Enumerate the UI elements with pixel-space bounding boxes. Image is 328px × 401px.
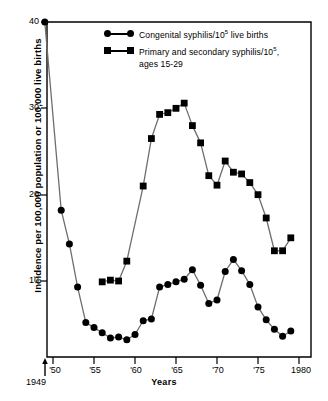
data-point-square-1956: [99, 278, 106, 285]
square-marker-icon: [104, 45, 134, 56]
data-point-square-1967: [189, 122, 196, 129]
data-point-circle-1958: [115, 334, 122, 341]
x-tick-label-1970: '70: [203, 365, 233, 375]
data-point-circle-1959: [123, 336, 130, 343]
circle-marker-icon: [104, 28, 134, 39]
data-point-square-1957: [107, 277, 114, 284]
legend-label-congenital: Congenital syphilis/105 live births: [139, 27, 268, 41]
data-point-circle-1970: [214, 296, 221, 303]
data-point-square-1962: [148, 135, 155, 142]
chart-legend: Congenital syphilis/105 live births Prim…: [104, 27, 279, 73]
data-point-circle-1964: [164, 281, 171, 288]
data-point-circle-1973: [238, 267, 245, 274]
data-point-square-1969: [205, 172, 212, 179]
data-point-square-1966: [181, 100, 188, 107]
data-point-circle-1978: [279, 333, 286, 340]
data-point-square-1973: [238, 171, 245, 178]
data-point-circle-1954: [82, 319, 89, 326]
x-tick-label-1965: '65: [162, 365, 192, 375]
y-tick-label-40: 40: [17, 16, 39, 26]
data-point-circle-1977: [271, 326, 278, 333]
chart-figure: 40 30 20 10 '50 '55 '60 '65 '70 '75 1980…: [0, 0, 328, 401]
data-point-square-1963: [156, 111, 163, 118]
data-point-circle-1957: [107, 334, 114, 341]
data-point-square-1975: [255, 191, 262, 198]
y-axis-title: Incidence per 100,000 population or 100,…: [32, 36, 43, 296]
series-line-2: [102, 103, 291, 282]
data-point-circle-1963: [156, 284, 163, 291]
origin-year-label: 1949: [26, 377, 46, 387]
data-point-square-1971: [222, 158, 229, 165]
data-point-circle-1969: [205, 300, 212, 307]
data-point-circle-1955: [91, 324, 98, 331]
data-point-circle-1949: [41, 19, 48, 26]
data-point-circle-1952: [66, 240, 73, 247]
data-point-circle-1953: [74, 284, 81, 291]
data-point-circle-1951: [58, 207, 65, 214]
data-point-square-1979: [287, 234, 294, 241]
data-point-circle-1967: [189, 266, 196, 273]
data-point-square-1976: [263, 215, 270, 222]
data-point-circle-1960: [132, 331, 139, 338]
data-point-square-1978: [279, 247, 286, 254]
data-point-square-1958: [115, 278, 122, 285]
data-point-circle-1961: [140, 317, 147, 324]
data-point-square-1968: [197, 139, 204, 146]
data-point-square-1961: [140, 183, 147, 190]
data-point-circle-1962: [148, 315, 155, 322]
data-point-circle-1966: [181, 276, 188, 283]
legend-entry-congenital: Congenital syphilis/105 live births: [104, 27, 279, 41]
x-tick-label-1950: '50: [40, 365, 70, 375]
legend-label-congenital-tail: live births: [228, 30, 268, 40]
x-tick-label-1980: 1980: [286, 365, 316, 375]
x-axis-title: Years: [0, 377, 328, 387]
data-point-square-1974: [246, 179, 253, 186]
legend-label-primary-secondary: Primary and secondary syphilis/105,ages …: [139, 44, 279, 70]
legend-entry-primary-secondary: Primary and secondary syphilis/105,ages …: [104, 44, 279, 70]
data-point-square-1965: [173, 105, 180, 112]
x-tick-label-1960: '60: [121, 365, 151, 375]
legend-label-ps-line2: ages 15-29: [139, 59, 183, 69]
x-axis-ticks: [53, 357, 299, 364]
data-point-square-1977: [271, 247, 278, 254]
data-point-circle-1965: [173, 278, 180, 285]
data-point-circle-1976: [263, 316, 270, 323]
legend-label-congenital-main: Congenital syphilis/10: [139, 30, 225, 40]
data-point-circle-1979: [287, 328, 294, 335]
data-point-square-1964: [164, 109, 171, 116]
data-point-square-1972: [230, 169, 237, 176]
data-point-circle-1972: [230, 256, 237, 263]
legend-label-ps-tail: ,: [277, 47, 280, 57]
legend-label-ps-main: Primary and secondary syphilis/10: [139, 47, 273, 57]
data-point-square-1970: [214, 182, 221, 189]
data-point-circle-1971: [222, 268, 229, 275]
data-point-circle-1956: [99, 329, 106, 336]
x-tick-label-1975: '75: [244, 365, 274, 375]
data-point-circle-1975: [255, 303, 262, 310]
x-tick-label-1955: '55: [80, 365, 110, 375]
data-point-circle-1968: [197, 282, 204, 289]
data-point-circle-1974: [246, 281, 253, 288]
data-point-square-1959: [123, 258, 130, 265]
